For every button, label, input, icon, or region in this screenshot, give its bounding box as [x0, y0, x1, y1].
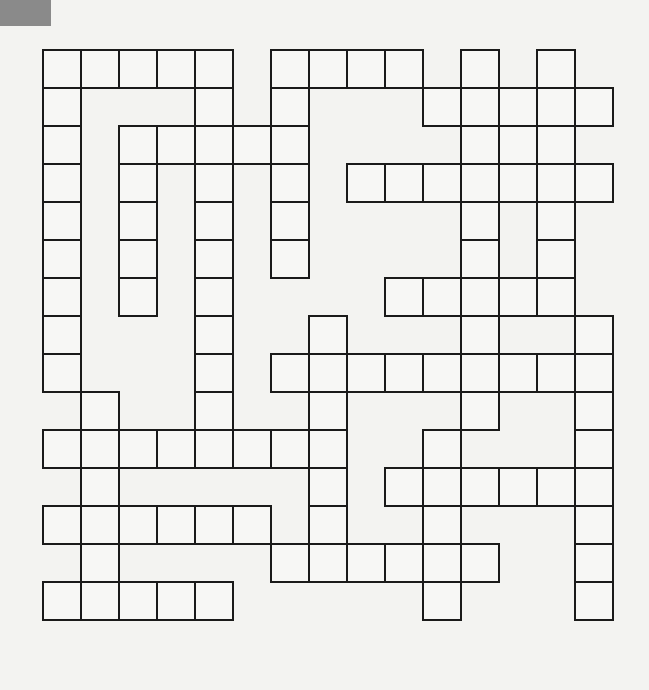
grid-cell[interactable]	[574, 391, 614, 431]
grid-cell[interactable]	[422, 543, 462, 583]
grid-cell[interactable]	[156, 581, 196, 621]
grid-cell[interactable]	[384, 49, 424, 89]
grid-cell[interactable]	[270, 353, 310, 393]
grid-cell[interactable]	[460, 543, 500, 583]
grid-cell[interactable]	[118, 505, 158, 545]
grid-cell[interactable]	[80, 391, 120, 431]
grid-cell[interactable]	[194, 125, 234, 165]
grid-cell[interactable]	[270, 49, 310, 89]
grid-cell[interactable]	[536, 87, 576, 127]
grid-cell[interactable]	[308, 543, 348, 583]
grid-cell[interactable]	[232, 429, 272, 469]
grid-cell[interactable]	[498, 277, 538, 317]
grid-cell[interactable]	[308, 315, 348, 355]
grid-cell[interactable]	[156, 125, 196, 165]
grid-cell[interactable]	[574, 163, 614, 203]
grid-cell[interactable]	[460, 125, 500, 165]
grid-cell[interactable]	[536, 163, 576, 203]
grid-cell[interactable]	[574, 315, 614, 355]
grid-cell[interactable]	[574, 543, 614, 583]
grid-cell[interactable]	[422, 163, 462, 203]
grid-cell[interactable]	[118, 239, 158, 279]
grid-cell[interactable]	[156, 49, 196, 89]
grid-cell[interactable]	[536, 277, 576, 317]
grid-cell[interactable]	[270, 543, 310, 583]
grid-cell[interactable]	[460, 163, 500, 203]
grid-cell[interactable]	[422, 581, 462, 621]
grid-cell[interactable]	[460, 353, 500, 393]
grid-cell[interactable]	[42, 125, 82, 165]
grid-cell[interactable]	[460, 49, 500, 89]
grid-cell[interactable]	[384, 467, 424, 507]
grid-cell[interactable]	[574, 467, 614, 507]
grid-cell[interactable]	[574, 353, 614, 393]
grid-cell[interactable]	[80, 467, 120, 507]
grid-cell[interactable]	[194, 163, 234, 203]
grid-cell[interactable]	[574, 87, 614, 127]
grid-cell[interactable]	[384, 277, 424, 317]
grid-cell[interactable]	[498, 163, 538, 203]
grid-cell[interactable]	[118, 163, 158, 203]
grid-cell[interactable]	[422, 277, 462, 317]
grid-cell[interactable]	[270, 163, 310, 203]
grid-cell[interactable]	[42, 505, 82, 545]
grid-cell[interactable]	[308, 49, 348, 89]
grid-cell[interactable]	[574, 581, 614, 621]
grid-cell[interactable]	[270, 239, 310, 279]
grid-cell[interactable]	[156, 505, 196, 545]
grid-cell[interactable]	[118, 581, 158, 621]
grid-cell[interactable]	[308, 467, 348, 507]
grid-cell[interactable]	[42, 239, 82, 279]
grid-cell[interactable]	[498, 353, 538, 393]
grid-cell[interactable]	[346, 49, 386, 89]
grid-cell[interactable]	[498, 467, 538, 507]
grid-cell[interactable]	[270, 87, 310, 127]
grid-cell[interactable]	[270, 201, 310, 241]
grid-cell[interactable]	[232, 505, 272, 545]
grid-cell[interactable]	[536, 467, 576, 507]
grid-cell[interactable]	[42, 315, 82, 355]
grid-cell[interactable]	[194, 87, 234, 127]
grid-cell[interactable]	[42, 163, 82, 203]
grid-cell[interactable]	[536, 201, 576, 241]
grid-cell[interactable]	[42, 581, 82, 621]
grid-cell[interactable]	[574, 505, 614, 545]
grid-cell[interactable]	[118, 125, 158, 165]
grid-cell[interactable]	[80, 429, 120, 469]
grid-cell[interactable]	[270, 125, 310, 165]
grid-cell[interactable]	[308, 505, 348, 545]
grid-cell[interactable]	[194, 49, 234, 89]
grid-cell[interactable]	[118, 49, 158, 89]
grid-cell[interactable]	[42, 353, 82, 393]
grid-cell[interactable]	[346, 353, 386, 393]
grid-cell[interactable]	[384, 353, 424, 393]
grid-cell[interactable]	[536, 125, 576, 165]
grid-cell[interactable]	[194, 581, 234, 621]
grid-cell[interactable]	[422, 87, 462, 127]
grid-cell[interactable]	[460, 201, 500, 241]
grid-cell[interactable]	[460, 467, 500, 507]
grid-cell[interactable]	[460, 239, 500, 279]
grid-cell[interactable]	[80, 505, 120, 545]
grid-cell[interactable]	[574, 429, 614, 469]
grid-cell[interactable]	[194, 315, 234, 355]
grid-cell[interactable]	[460, 277, 500, 317]
grid-cell[interactable]	[460, 391, 500, 431]
grid-cell[interactable]	[42, 429, 82, 469]
grid-cell[interactable]	[460, 315, 500, 355]
grid-cell[interactable]	[308, 429, 348, 469]
grid-cell[interactable]	[536, 353, 576, 393]
grid-cell[interactable]	[194, 239, 234, 279]
grid-cell[interactable]	[118, 201, 158, 241]
grid-cell[interactable]	[194, 201, 234, 241]
grid-cell[interactable]	[346, 543, 386, 583]
grid-cell[interactable]	[118, 277, 158, 317]
grid-cell[interactable]	[536, 239, 576, 279]
grid-cell[interactable]	[194, 391, 234, 431]
grid-cell[interactable]	[80, 581, 120, 621]
grid-cell[interactable]	[346, 163, 386, 203]
grid-cell[interactable]	[42, 277, 82, 317]
grid-cell[interactable]	[232, 125, 272, 165]
grid-cell[interactable]	[422, 353, 462, 393]
grid-cell[interactable]	[194, 353, 234, 393]
